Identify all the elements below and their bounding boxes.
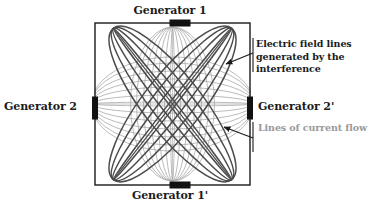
electrode-generator-2 [92,97,98,120]
generator-2-label: Generator 2 [4,101,77,114]
generator-1-prime-label: Generator 1' [0,190,340,203]
electric-field-annotation: Electric field lines generated by the in… [256,38,378,76]
generator-1-label: Generator 1 [0,5,340,18]
electrode-generator-2p [247,97,253,120]
generator-2-prime-label: Generator 2' [258,101,334,114]
current-flow-annotation: Lines of current flow [258,122,367,135]
electric-field-arrow [226,53,253,64]
electrode-generator-1p [170,182,191,189]
electrode-generator-1 [170,20,191,27]
current-flow-arrow [224,127,253,138]
figure-root: Generator 1 Generator 1' Generator 2 Gen… [0,0,378,211]
